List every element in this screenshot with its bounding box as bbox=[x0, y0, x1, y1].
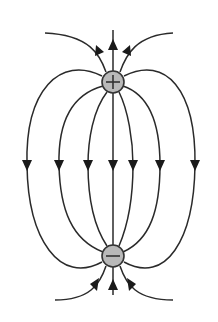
arrow-down-icon bbox=[83, 160, 93, 171]
arrow-down-icon bbox=[128, 160, 138, 171]
positive-charge bbox=[102, 71, 124, 93]
field-line-inner-right bbox=[119, 92, 133, 246]
arrow-down-icon bbox=[155, 160, 165, 171]
field-line-outer-left bbox=[27, 70, 102, 268]
arrow-up-icon bbox=[108, 279, 118, 290]
arrow-down-icon bbox=[22, 160, 32, 171]
arrow-up-left-icon bbox=[95, 45, 104, 56]
field-line-mid-right bbox=[123, 86, 160, 252]
arrow-down-icon bbox=[190, 160, 200, 171]
field-line-inner-left bbox=[88, 92, 107, 246]
arrow-down-icon bbox=[108, 160, 118, 171]
dipole-field-diagram: Electric field lines of an electric dipo… bbox=[0, 0, 218, 322]
arrow-up-icon bbox=[108, 39, 118, 50]
negative-charge bbox=[102, 245, 124, 267]
arrow-up-right-icon bbox=[122, 45, 131, 56]
field-lines-canvas bbox=[0, 0, 218, 322]
arrow-down-icon bbox=[54, 160, 64, 171]
field-line-bottom-left bbox=[55, 266, 106, 300]
